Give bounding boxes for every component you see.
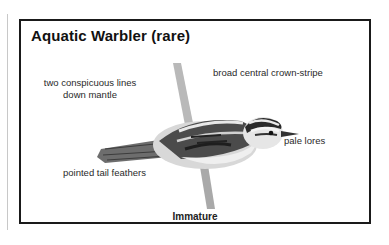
- label-mantle-lines: two conspicuous lines down mantle: [35, 77, 145, 101]
- page-margin-rule: [7, 14, 8, 230]
- label-pale-lores: pale lores: [284, 135, 325, 147]
- label-crown-stripe: broad central crown-stripe: [213, 67, 323, 79]
- label-tail-feathers: pointed tail feathers: [63, 167, 146, 179]
- plate-title: Aquatic Warbler (rare): [31, 27, 190, 44]
- plate-caption: Immature: [21, 211, 369, 222]
- illustration-plate: Aquatic Warbler (rare) two conspicuous l…: [19, 19, 371, 224]
